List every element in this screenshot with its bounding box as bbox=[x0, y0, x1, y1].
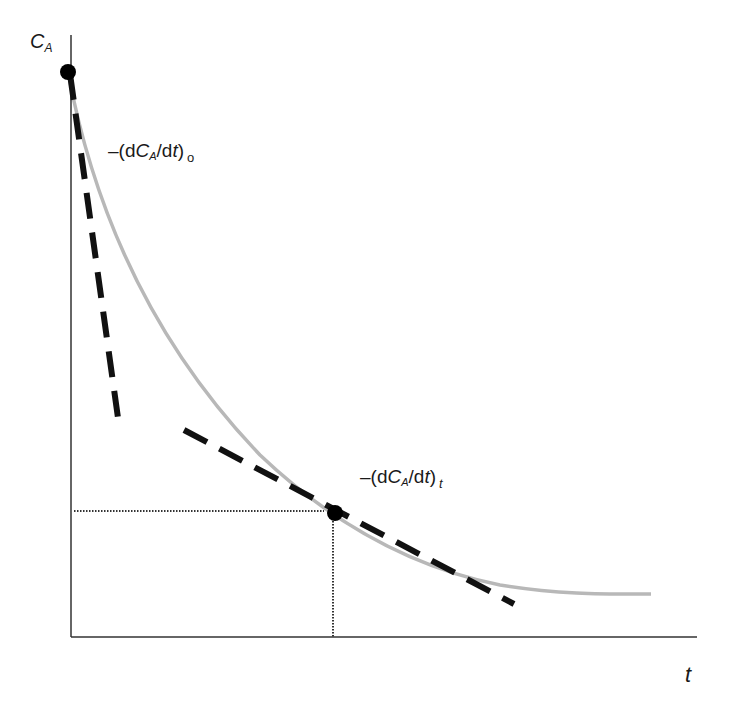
diagram-canvas bbox=[0, 0, 731, 708]
initial-tangent-label: –(dCA/dt)o bbox=[108, 140, 194, 165]
label-close: ) bbox=[178, 140, 184, 161]
label-var: C bbox=[135, 140, 149, 161]
label-close: ) bbox=[430, 466, 436, 487]
label-subscript: t bbox=[439, 476, 443, 491]
y-axis-subscript: A bbox=[44, 41, 52, 55]
initial-point bbox=[60, 64, 76, 80]
point-at-time-t bbox=[327, 505, 343, 521]
label-var: C bbox=[387, 466, 401, 487]
label-mid: /d bbox=[409, 466, 425, 487]
y-axis-symbol: C bbox=[30, 30, 44, 52]
y-axis-label: CA bbox=[30, 30, 52, 55]
label-var-sub: A bbox=[401, 476, 408, 488]
label-subscript: o bbox=[187, 150, 194, 165]
label-prefix: –(d bbox=[360, 466, 387, 487]
label-var-sub: A bbox=[149, 150, 156, 162]
label-prefix: –(d bbox=[108, 140, 135, 161]
initial-tangent-line bbox=[70, 74, 118, 418]
label-mid: /d bbox=[157, 140, 173, 161]
x-axis-label: t bbox=[685, 662, 691, 688]
tangent-at-t-label: –(dCA/dt)t bbox=[360, 466, 443, 491]
